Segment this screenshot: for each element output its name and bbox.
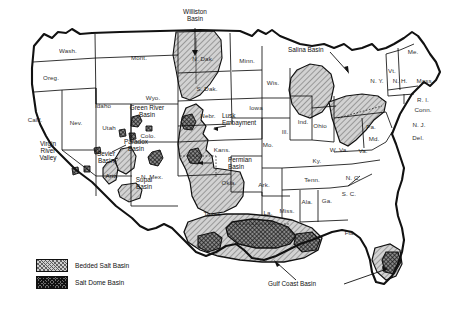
state-label-ohio: Ohio	[313, 123, 326, 130]
legend-label-dome: Salt Dome Basin	[75, 279, 124, 286]
state-label-kans: Kans.	[214, 147, 230, 154]
state-label-ky: Ky.	[313, 158, 322, 165]
state-label-n-h: N. H.	[393, 78, 408, 85]
state-label-idaho: Idaho	[95, 103, 111, 110]
salt-basin-map-figure: Williston Basin Green River Basin Parado…	[0, 0, 450, 315]
basin-label-green-river: Green River Basin	[130, 104, 164, 118]
state-label-n-dak: N. Dak.	[192, 56, 213, 63]
basin-label-williston: Williston Basin	[183, 8, 207, 22]
state-label-ga: Ga.	[322, 198, 332, 205]
state-label-okla: Okla.	[222, 180, 237, 187]
legend-item-bedded-salt-basin: Bedded Salt Basin	[36, 258, 166, 272]
basin-label-paradox: Paradox Basin	[124, 138, 148, 152]
state-label-utah: Utah	[102, 125, 115, 132]
state-label-mo: Mo.	[263, 142, 274, 149]
state-label-iowa: Iowa	[249, 105, 262, 112]
state-label-n-mex: N. Mex.	[141, 174, 163, 181]
state-label-ala: Ala.	[301, 199, 312, 206]
state-label-colo: Colo.	[141, 133, 156, 140]
state-label-me: Me.	[408, 49, 419, 56]
state-label-mass: Mass.	[416, 78, 433, 85]
basin-label-lusk-embayment: Lusk Embayment	[222, 112, 256, 126]
state-label-ill: Ill.	[282, 129, 289, 136]
state-label-fla: Fla.	[345, 230, 356, 237]
state-label-n-y: N. Y.	[370, 78, 383, 85]
basin-label-gulf-coast: Gulf Coast Basin	[268, 280, 316, 287]
state-label-mont: Mont.	[131, 55, 147, 62]
basin-label-permian: Permian Basin	[228, 156, 252, 170]
state-label-ind: Ind.	[298, 119, 309, 126]
state-label-vt: Vt.	[388, 68, 396, 75]
state-label-texas: Texas	[204, 211, 221, 218]
state-label-conn: Conn.	[414, 107, 431, 114]
state-label-nebr: Nebr.	[200, 113, 215, 120]
state-label-n-c: N. C.	[346, 175, 361, 182]
state-label-ark: Ark.	[258, 182, 269, 189]
legend-label-bedded: Bedded Salt Basin	[75, 262, 129, 269]
state-label-w-va: W. Va.	[330, 147, 348, 154]
state-label-md: Md.	[369, 136, 380, 143]
legend-item-salt-dome-basin: Salt Dome Basin	[36, 275, 166, 289]
state-label-r-i: R. I.	[417, 97, 429, 104]
state-label-va: Va.	[358, 148, 367, 155]
state-label-minn: Minn.	[239, 58, 255, 65]
state-label-n-j: N. J.	[412, 122, 425, 129]
state-label-nev: Nev.	[70, 120, 83, 127]
state-label-wash: Wash.	[59, 48, 77, 55]
map-legend: Bedded Salt Basin Salt Dome Basin	[36, 258, 166, 292]
state-label-s-c: S. C.	[342, 191, 356, 198]
state-label-tenn: Tenn.	[304, 177, 320, 184]
state-label-calif: Calif.	[28, 117, 43, 124]
state-label-miss: Miss.	[280, 208, 295, 215]
state-label-del: Del.	[412, 135, 423, 142]
state-label-la: La.	[264, 210, 273, 217]
bedded-salt-swatch-icon	[36, 259, 68, 272]
basin-label-salina: Salina Basin	[288, 46, 324, 53]
state-label-wis: Wis.	[267, 80, 279, 87]
state-label-ariz: Ariz.	[106, 173, 119, 180]
state-label-s-dak: S. Dak.	[197, 86, 218, 93]
state-label-pa: Pa.	[366, 124, 376, 131]
basin-label-sevier: Sevier Basin	[97, 150, 115, 164]
basin-label-virgin-river: Virgin River Valley	[40, 140, 57, 162]
state-label-oreg: Oreg.	[43, 75, 59, 82]
salt-dome-swatch-icon	[36, 276, 68, 289]
figure-caption	[34, 307, 434, 315]
state-label-wyo: Wyo.	[146, 95, 160, 102]
